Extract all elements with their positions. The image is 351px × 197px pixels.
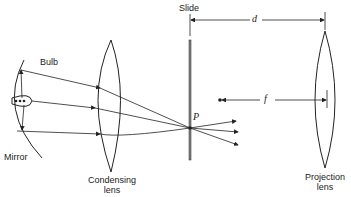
- condensing-lens-label-2: lens: [85, 185, 139, 195]
- projection-lens-label-1: Projection: [300, 172, 350, 182]
- condensing-lens-label-1: Condensing: [85, 175, 139, 185]
- projection-lens-label-2: lens: [300, 182, 350, 192]
- slide-label: Slide: [179, 3, 199, 13]
- focal-point: [218, 98, 222, 102]
- slide: [189, 40, 191, 160]
- distance-d-label: d: [252, 14, 257, 24]
- projector-diagram: [0, 0, 351, 197]
- condensing-lens: [98, 40, 121, 172]
- mirror: [14, 60, 42, 158]
- focal-length-label: f: [264, 94, 267, 104]
- point-p-label: P: [193, 112, 199, 122]
- projection-lens: [315, 31, 335, 168]
- mirror-label: Mirror: [4, 152, 28, 162]
- bulb-label: Bulb: [40, 57, 58, 67]
